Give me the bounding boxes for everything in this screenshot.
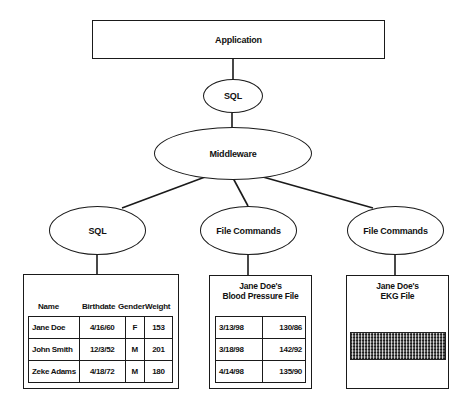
ekg-file-title: Jane Doe's EKG File <box>347 281 448 301</box>
ekg-file-title-line2: EKG File <box>347 291 448 301</box>
column-header-gender: Gender <box>118 302 145 311</box>
branch-file-commands-label-1: File Commands <box>216 226 280 236</box>
blood-pressure-file-box: Jane Doe's Blood Pressure File 3/13/98 1… <box>209 275 312 389</box>
middleware-ellipse: Middleware <box>154 127 312 180</box>
cell-date: 3/18/98 <box>216 339 263 361</box>
line-middleware-to-file-commands-1 <box>233 178 248 206</box>
table-row: John Smith 12/3/52 M 201 <box>29 339 173 361</box>
table-row: Zeke Adams 4/18/72 M 180 <box>29 361 173 383</box>
bp-file-title-line2: Blood Pressure File <box>210 291 311 301</box>
bp-file-title: Jane Doe's Blood Pressure File <box>210 281 311 301</box>
middleware-label: Middleware <box>209 149 256 159</box>
branch-file-commands-ellipse-1: File Commands <box>200 206 297 255</box>
cell-reading: 142/92 <box>263 339 306 361</box>
branch-file-commands-ellipse-2: File Commands <box>347 206 444 255</box>
branch-file-commands-label-2: File Commands <box>363 226 427 236</box>
table-row: 3/18/98 142/92 <box>216 339 306 361</box>
ekg-file-title-line1: Jane Doe's <box>347 281 448 291</box>
cell-weight: 180 <box>144 361 172 383</box>
application-box: Application <box>92 20 385 59</box>
cell-gender: M <box>125 361 144 383</box>
cell-birthdate: 4/16/60 <box>79 317 125 339</box>
line-middleware-to-sql <box>122 177 205 208</box>
bp-file-title-line1: Jane Doe's <box>210 281 311 291</box>
column-header-weight: Weight <box>145 302 170 311</box>
cell-name: Zeke Adams <box>29 361 80 383</box>
line-middleware-to-file-commands-2 <box>263 177 373 208</box>
ekg-trace-image <box>350 332 446 360</box>
cell-gender: F <box>125 317 144 339</box>
ekg-file-box: Jane Doe's EKG File <box>346 275 449 389</box>
cell-date: 4/14/98 <box>216 361 263 383</box>
cell-name: Jane Doe <box>29 317 80 339</box>
branch-sql-label: SQL <box>89 226 107 236</box>
cell-gender: M <box>125 339 144 361</box>
cell-birthdate: 12/3/52 <box>79 339 125 361</box>
cell-weight: 153 <box>144 317 172 339</box>
cell-name: John Smith <box>29 339 80 361</box>
branch-sql-ellipse: SQL <box>49 206 146 255</box>
column-header-birthdate: Birthdate <box>82 302 115 311</box>
column-header-name: Name <box>38 302 59 311</box>
table-row: 4/14/98 135/90 <box>216 361 306 383</box>
patient-table: Jane Doe 4/16/60 F 153 John Smith 12/3/5… <box>28 316 173 383</box>
cell-reading: 135/90 <box>263 361 306 383</box>
relational-table-box: Name Birthdate Gender Weight Jane Doe 4/… <box>23 274 179 389</box>
sql-protocol-ellipse: SQL <box>203 79 263 113</box>
cell-reading: 130/86 <box>263 317 306 339</box>
table-row: 3/13/98 130/86 <box>216 317 306 339</box>
sql-protocol-label: SQL <box>224 91 242 101</box>
cell-weight: 201 <box>144 339 172 361</box>
blood-pressure-table: 3/13/98 130/86 3/18/98 142/92 4/14/98 13… <box>215 316 306 383</box>
application-label: Application <box>215 35 262 45</box>
table-row: Jane Doe 4/16/60 F 153 <box>29 317 173 339</box>
cell-date: 3/13/98 <box>216 317 263 339</box>
cell-birthdate: 4/18/72 <box>79 361 125 383</box>
